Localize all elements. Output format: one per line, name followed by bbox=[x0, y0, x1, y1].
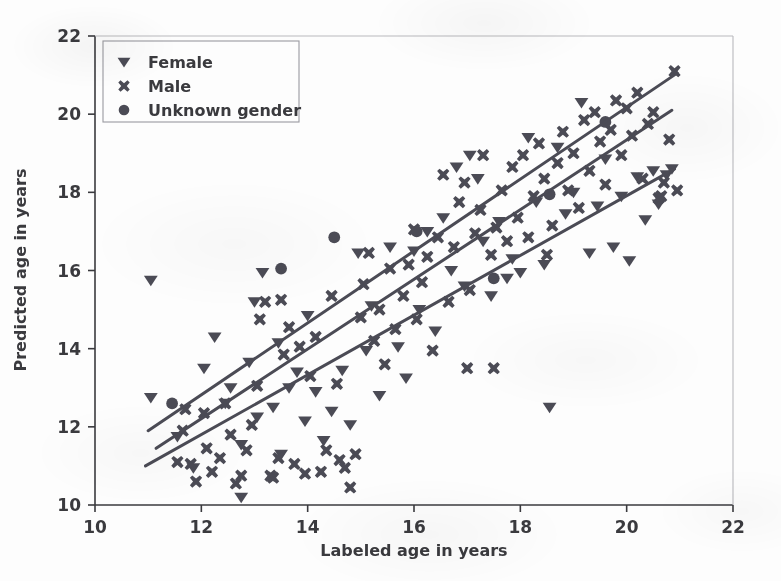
scatter-chart: 10121416182022 10121416182022 Labeled ag… bbox=[0, 0, 781, 581]
y-tick-label: 14 bbox=[57, 339, 81, 359]
y-tick-label: 12 bbox=[57, 417, 81, 437]
y-tick-label: 18 bbox=[57, 182, 81, 202]
y-tick-label: 16 bbox=[57, 261, 81, 281]
y-tick-label: 22 bbox=[57, 26, 81, 46]
x-tick-label: 18 bbox=[508, 517, 532, 537]
legend-label-female: Female bbox=[148, 53, 213, 72]
x-tick-label: 12 bbox=[189, 517, 213, 537]
legend: FemaleMaleUnknown gender bbox=[103, 41, 301, 122]
legend-label-unknown-gender: Unknown gender bbox=[148, 101, 301, 120]
data-point-circle bbox=[166, 397, 178, 409]
x-tick-label: 14 bbox=[296, 517, 320, 537]
chart-page: 10121416182022 10121416182022 Labeled ag… bbox=[0, 0, 781, 581]
data-point-circle bbox=[411, 226, 423, 238]
y-tick-label: 20 bbox=[57, 104, 81, 124]
data-point-circle bbox=[119, 105, 130, 116]
x-tick-label: 10 bbox=[83, 517, 107, 537]
x-axis-title: Labeled age in years bbox=[320, 541, 507, 560]
data-point-circle bbox=[328, 231, 340, 243]
x-tick-label: 16 bbox=[402, 517, 426, 537]
legend-label-male: Male bbox=[148, 77, 191, 96]
x-tick-label: 22 bbox=[721, 517, 745, 537]
data-point-circle bbox=[275, 263, 287, 275]
x-tick-label: 20 bbox=[615, 517, 639, 537]
y-tick-label: 10 bbox=[57, 495, 81, 515]
y-axis-title: Predicted age in years bbox=[11, 168, 30, 371]
